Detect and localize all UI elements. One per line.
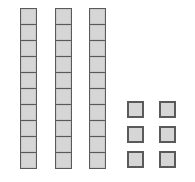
rod-cube xyxy=(21,105,36,120)
rod-cube xyxy=(21,153,36,168)
ten-rod xyxy=(20,8,37,169)
rod-cube xyxy=(21,73,36,88)
rod-cube xyxy=(56,57,71,72)
rod-cube xyxy=(90,9,105,24)
rod-cube xyxy=(21,137,36,152)
rod-cube xyxy=(90,41,105,56)
rod-cube xyxy=(56,73,71,88)
rod-cube xyxy=(90,57,105,72)
rod-cube xyxy=(56,25,71,40)
rod-cube xyxy=(90,73,105,88)
ten-rod xyxy=(55,8,72,169)
rod-cube xyxy=(56,9,71,24)
unit-cube xyxy=(127,101,144,118)
rod-cube xyxy=(21,9,36,24)
rod-cube xyxy=(56,137,71,152)
rod-cube xyxy=(90,105,105,120)
rod-cube xyxy=(56,121,71,136)
rod-cube xyxy=(56,153,71,168)
rod-cube xyxy=(56,105,71,120)
rod-cube xyxy=(90,89,105,104)
rod-cube xyxy=(56,89,71,104)
unit-cube xyxy=(127,151,144,168)
unit-cube xyxy=(159,101,176,118)
unit-cube xyxy=(127,126,144,143)
unit-cube xyxy=(159,126,176,143)
rod-cube xyxy=(21,57,36,72)
rod-cube xyxy=(56,41,71,56)
rod-cube xyxy=(21,41,36,56)
rod-cube xyxy=(90,153,105,168)
ten-rod xyxy=(89,8,106,169)
unit-cube xyxy=(159,151,176,168)
rod-cube xyxy=(21,121,36,136)
rod-cube xyxy=(21,89,36,104)
rod-cube xyxy=(90,121,105,136)
rod-cube xyxy=(21,25,36,40)
rod-cube xyxy=(90,25,105,40)
rod-cube xyxy=(90,137,105,152)
